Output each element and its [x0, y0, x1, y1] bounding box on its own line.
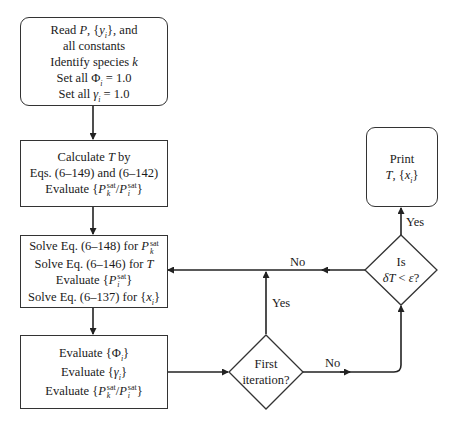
eval-line-1: Evaluate {Φi} — [59, 344, 129, 363]
solve-line-4: Solve Eq. (6–137) for {xi} — [28, 289, 160, 305]
start-line-5: Set all γi = 1.0 — [59, 86, 130, 102]
print-line-1: Print — [390, 151, 414, 167]
calc-line-3: Evaluate {Psatk/Psati} — [45, 181, 142, 198]
no-label-first-iteration: No — [325, 356, 340, 371]
first-iteration-decision-text: First iteration? — [242, 356, 289, 388]
solve-box: Solve Eq. (6–148) for Psatk Solve Eq. (6… — [20, 235, 168, 308]
convergence-decision-text: Is δT < ε? — [383, 254, 420, 286]
calc-line-1: Calculate T by — [58, 149, 131, 165]
no-label-convergence: No — [290, 255, 305, 270]
start-line-3: Identify species k — [50, 54, 137, 70]
evaluate-box: Evaluate {Φi} Evaluate {γi} Evaluate {Ps… — [20, 335, 168, 409]
print-line-2: T, {xi} — [386, 167, 419, 183]
eval-line-2: Evaluate {γi} — [61, 363, 127, 382]
calculate-box: Calculate T by Eqs. (6–149) and (6–142) … — [20, 140, 168, 207]
yes-label-convergence: Yes — [406, 215, 424, 230]
yes-label-first-iteration: Yes — [272, 296, 290, 311]
calc-line-2: Eqs. (6–149) and (6–142) — [30, 165, 158, 181]
start-line-4: Set all Φi = 1.0 — [56, 70, 131, 86]
solve-line-3: Evaluate {Psati} — [56, 272, 132, 289]
solve-line-2: Solve Eq. (6–146) for T — [34, 256, 153, 272]
print-box: Print T, {xi} — [366, 127, 438, 207]
start-box: Read P, {yi}, and all constants Identify… — [20, 17, 168, 106]
eval-line-3: Evaluate {Psatk/Psati} — [45, 382, 142, 401]
solve-line-1: Solve Eq. (6–148) for Psatk — [29, 238, 159, 255]
start-line-2: all constants — [63, 38, 125, 54]
start-line-1: Read P, {yi}, and — [51, 22, 138, 38]
